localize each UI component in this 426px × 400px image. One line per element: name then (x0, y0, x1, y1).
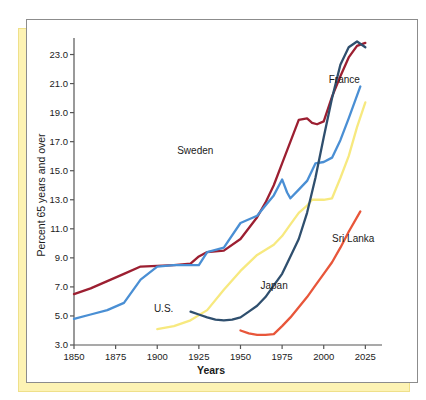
x-tick-label: 1950 (220, 351, 260, 362)
y-tick-label: 9.0 (30, 252, 68, 263)
y-tick-label: 19.0 (30, 107, 68, 118)
series-label-sweden: Sweden (177, 145, 213, 156)
y-tick-label: 7.0 (30, 281, 68, 292)
x-tick-label: 2000 (304, 351, 344, 362)
x-tick-label: 1975 (262, 351, 302, 362)
y-tick-label: 3.0 (30, 339, 68, 350)
series-line-sweden (74, 43, 365, 294)
series-label-u-s: U.S. (154, 303, 173, 314)
x-tick-label: 1850 (54, 351, 94, 362)
x-tick-label: 2025 (345, 351, 385, 362)
y-tick-label: 11.0 (30, 223, 68, 234)
series-line-u-s (157, 102, 365, 329)
y-tick-label: 17.0 (30, 136, 68, 147)
x-tick-label: 1900 (137, 351, 177, 362)
series-line-sri-lanka (240, 211, 360, 334)
x-axis-title: Years (197, 364, 225, 376)
y-tick-label: 13.0 (30, 194, 68, 205)
x-tick-label: 1925 (179, 351, 219, 362)
figure-container: Percent 65 years and over 3.05.07.09.011… (0, 0, 426, 400)
y-tick-label: 5.0 (30, 310, 68, 321)
y-tick-label: 21.0 (30, 78, 68, 89)
series-label-japan: Japan (261, 280, 288, 291)
y-tick-label: 15.0 (30, 165, 68, 176)
series-label-sri-lanka: Sri Lanka (332, 233, 374, 244)
x-tick-label: 1875 (96, 351, 136, 362)
series-group (74, 41, 365, 334)
y-tick-label: 23.0 (30, 49, 68, 60)
series-label-france: France (329, 74, 360, 85)
